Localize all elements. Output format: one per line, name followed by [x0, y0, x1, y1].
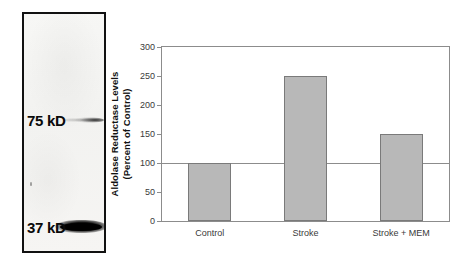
bar-stroke-mem [380, 134, 423, 221]
y-tick-label: 300 [140, 43, 155, 52]
plot-area: 050100150200250300 ControlStrokeStroke +… [161, 46, 450, 222]
y-tick-label: 100 [140, 159, 155, 168]
bar-stroke [284, 76, 327, 221]
blot-band-75kd [64, 117, 104, 123]
western-blot-panel: 75 kD 37 kD [22, 12, 106, 253]
molecular-weight-label-75kd: 75 kD [27, 112, 66, 129]
y-tick-mark [157, 221, 162, 222]
bar-chart-panel: Aldolase Reductase Levels (Percent of Co… [112, 8, 467, 258]
blot-film-background [24, 14, 104, 251]
y-axis-title: Aldolase Reductase Levels (Percent of Co… [110, 46, 132, 222]
x-tick-label: Control [195, 229, 224, 238]
y-tick-label: 50 [145, 188, 155, 197]
y-tick-label: 150 [140, 130, 155, 139]
blot-artifact-speck [30, 182, 32, 186]
x-tick-label: Stroke + MEM [373, 229, 430, 238]
y-tick-label: 250 [140, 72, 155, 81]
molecular-weight-label-37kd: 37 kD [27, 219, 66, 236]
x-tick-label: Stroke [292, 229, 318, 238]
bars-layer [162, 47, 449, 221]
y-axis-title-line-2: (Percent of Control) [122, 88, 133, 179]
bar-control [188, 163, 231, 221]
y-tick-label: 0 [150, 217, 155, 226]
y-axis-title-line-1: Aldolase Reductase Levels [110, 72, 121, 197]
y-tick-label: 200 [140, 101, 155, 110]
figure-root: 75 kD 37 kD Aldolase Reductase Levels (P… [0, 0, 473, 263]
blot-band-37kd-core [60, 223, 102, 231]
